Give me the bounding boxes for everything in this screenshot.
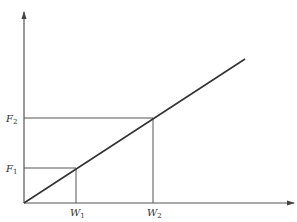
label-w1: W1 xyxy=(70,207,85,220)
label-f2: F2 xyxy=(5,113,17,126)
linear-relation-line xyxy=(24,59,245,203)
label-f1: F1 xyxy=(5,163,17,176)
label-w2: W2 xyxy=(147,207,162,220)
diagram-canvas: F2 F1 W1 W2 xyxy=(0,0,297,222)
